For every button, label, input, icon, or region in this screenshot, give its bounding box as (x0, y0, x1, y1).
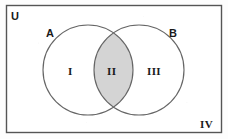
set-a-label: A (46, 28, 54, 39)
region-label-ii: II (107, 66, 116, 77)
region-label-iv: IV (200, 119, 213, 130)
venn-diagram-figure: U A B I II III IV (0, 0, 228, 139)
region-label-i: I (68, 66, 73, 77)
region-label-iii: III (147, 66, 161, 77)
set-b-label: B (169, 28, 177, 39)
universal-set-label: U (11, 11, 19, 22)
